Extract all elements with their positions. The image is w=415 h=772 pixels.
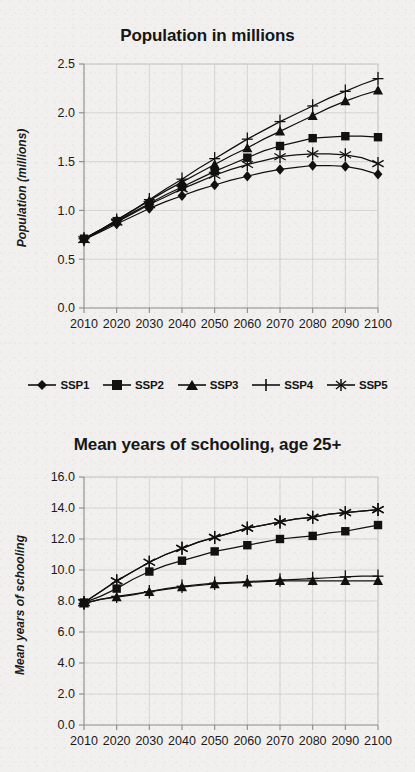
svg-text:2070: 2070 — [266, 317, 294, 331]
svg-text:2020: 2020 — [103, 317, 131, 331]
svg-text:1.0: 1.0 — [58, 204, 75, 218]
legend-item-ssp1[interactable]: SSP1 — [27, 378, 89, 392]
svg-text:0.0: 0.0 — [58, 301, 75, 315]
svg-text:14.0: 14.0 — [51, 501, 75, 515]
population-plot-svg: 0.00.51.01.52.02.52010202020302040205020… — [0, 46, 415, 346]
legend-label-ssp1: SSP1 — [60, 379, 89, 391]
square-icon — [102, 378, 132, 392]
svg-text:2050: 2050 — [201, 317, 229, 331]
svg-text:16.0: 16.0 — [51, 470, 75, 484]
svg-text:2080: 2080 — [299, 734, 327, 748]
svg-text:2.0: 2.0 — [58, 106, 75, 120]
svg-text:0.5: 0.5 — [58, 253, 75, 267]
svg-text:2040: 2040 — [168, 317, 196, 331]
diamond-icon — [27, 378, 57, 392]
svg-text:2020: 2020 — [103, 734, 131, 748]
plus-icon — [251, 378, 281, 392]
svg-text:2070: 2070 — [266, 734, 294, 748]
svg-text:2050: 2050 — [201, 734, 229, 748]
legend-item-ssp2[interactable]: SSP2 — [102, 378, 164, 392]
svg-text:2.5: 2.5 — [58, 57, 75, 71]
svg-text:2090: 2090 — [331, 317, 359, 331]
svg-text:1.5: 1.5 — [58, 155, 75, 169]
svg-text:2.0: 2.0 — [58, 687, 75, 701]
legend-item-ssp3[interactable]: SSP3 — [177, 378, 239, 392]
svg-text:2060: 2060 — [233, 317, 261, 331]
svg-text:4.0: 4.0 — [58, 656, 75, 670]
svg-text:2100: 2100 — [364, 317, 392, 331]
schooling-plot-svg: 0.02.04.06.08.010.012.014.016.0201020202… — [0, 455, 415, 765]
svg-text:Population (millions): Population (millions) — [15, 129, 29, 248]
svg-text:10.0: 10.0 — [51, 563, 75, 577]
svg-text:2030: 2030 — [135, 734, 163, 748]
svg-text:2010: 2010 — [70, 317, 98, 331]
population-chart-title: Population in millions — [0, 0, 415, 46]
svg-text:2040: 2040 — [168, 734, 196, 748]
svg-text:2090: 2090 — [331, 734, 359, 748]
schooling-chart: Mean years of schooling, age 25+ 0.02.04… — [0, 420, 415, 772]
svg-text:2010: 2010 — [70, 734, 98, 748]
ssp-legend: SSP1 SSP2 SSP3 SSP4 — [0, 378, 415, 392]
svg-text:12.0: 12.0 — [51, 532, 75, 546]
svg-text:6.0: 6.0 — [58, 625, 75, 639]
legend-label-ssp2: SSP2 — [135, 379, 164, 391]
legend-label-ssp3: SSP3 — [210, 379, 239, 391]
population-plot-area: 0.00.51.01.52.02.52010202020302040205020… — [0, 46, 415, 346]
population-chart: Population in millions 0.00.51.01.52.02.… — [0, 0, 415, 408]
svg-text:2030: 2030 — [135, 317, 163, 331]
svg-text:2060: 2060 — [233, 734, 261, 748]
legend-item-ssp5[interactable]: SSP5 — [326, 378, 388, 392]
schooling-plot-area: 0.02.04.06.08.010.012.014.016.0201020202… — [0, 455, 415, 765]
svg-text:2080: 2080 — [299, 317, 327, 331]
asterisk-icon — [326, 378, 356, 392]
svg-text:8.0: 8.0 — [58, 594, 75, 608]
svg-text:0.0: 0.0 — [58, 718, 75, 732]
legend-label-ssp5: SSP5 — [359, 379, 388, 391]
legend-item-ssp4[interactable]: SSP4 — [251, 378, 313, 392]
svg-text:Mean years of schooling: Mean years of schooling — [13, 534, 27, 675]
svg-text:2100: 2100 — [364, 734, 392, 748]
triangle-icon — [177, 378, 207, 392]
schooling-chart-title: Mean years of schooling, age 25+ — [0, 420, 415, 455]
legend-label-ssp4: SSP4 — [284, 379, 313, 391]
